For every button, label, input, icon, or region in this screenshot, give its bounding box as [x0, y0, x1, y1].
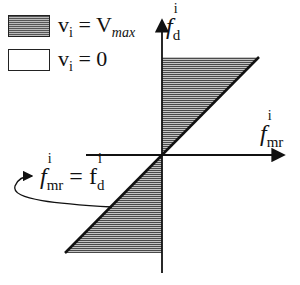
diagram-canvas — [0, 0, 300, 285]
y-axis-label: fid — [166, 14, 180, 38]
legend-label-zero: vi = 0 — [58, 48, 107, 70]
legend-swatch-vmax — [8, 15, 50, 37]
legend-swatch-zero — [8, 49, 50, 71]
legend-label-vmax: vi = Vmax — [58, 14, 135, 36]
equality-annotation: fimr = fid — [40, 164, 104, 188]
x-axis-label: fimr — [260, 121, 283, 145]
